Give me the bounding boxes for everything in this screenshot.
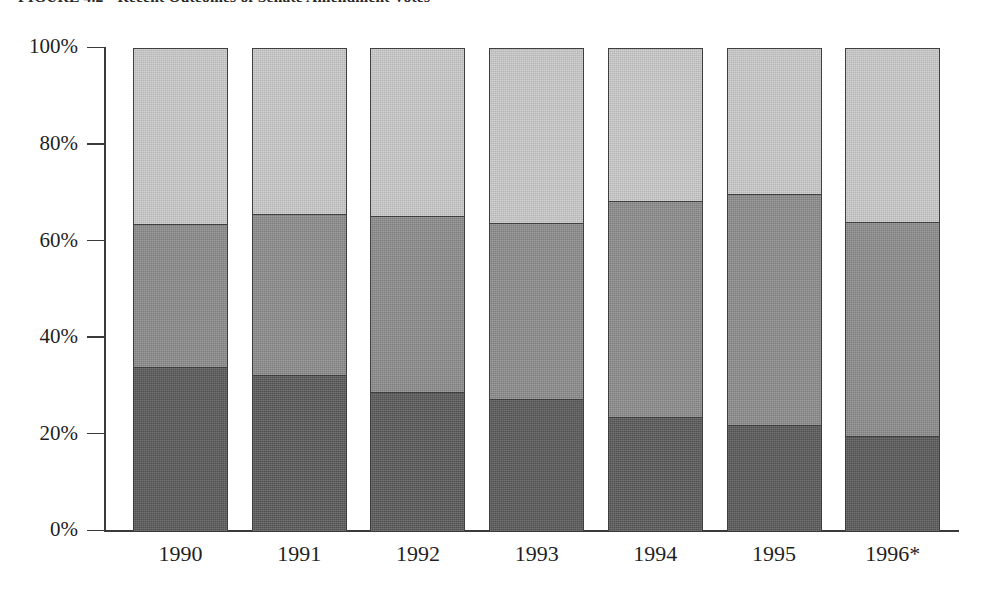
bar-segment-bottom[interactable] (133, 367, 228, 531)
y-axis-tick-label: 60% (40, 230, 79, 251)
y-axis-tick: 0% (87, 530, 104, 531)
bar-segment-middle[interactable] (133, 224, 228, 367)
bar-segment-top[interactable] (133, 48, 228, 224)
bar-segment-top[interactable] (370, 48, 465, 216)
bar-segment-bottom[interactable] (727, 425, 822, 531)
plot-area: 0%20%40%60%80%100% (104, 48, 959, 531)
y-axis-tick: 60% (87, 240, 104, 241)
figure-title-text: Recent Outcomes of Senate Amendment Vote… (118, 0, 431, 5)
bar-segment-top[interactable] (845, 48, 940, 222)
bar-stack[interactable] (252, 48, 347, 531)
bar-segment-middle[interactable] (727, 194, 822, 425)
y-axis-tick: 40% (87, 336, 104, 337)
x-axis-label: 1996* (823, 543, 963, 565)
bar-stack[interactable] (489, 48, 584, 531)
bar-segment-bottom[interactable] (252, 375, 347, 531)
bar-stack[interactable] (133, 48, 228, 531)
y-axis-tick-label: 0% (50, 519, 78, 540)
figure-container: FIGURE 4.2Recent Outcomes of Senate Amen… (0, 0, 983, 598)
bar-segment-top[interactable] (727, 48, 822, 194)
bar-segment-bottom[interactable] (608, 417, 703, 531)
bar-segment-bottom[interactable] (845, 436, 940, 531)
figure-number: FIGURE 4.2 (18, 0, 104, 5)
bar-segment-top[interactable] (608, 48, 703, 201)
y-axis-tick-label: 80% (40, 133, 79, 154)
bar-segment-middle[interactable] (252, 214, 347, 375)
bar-stack[interactable] (608, 48, 703, 531)
bar-segment-bottom[interactable] (370, 392, 465, 531)
bar-segment-middle[interactable] (845, 222, 940, 436)
figure-title: FIGURE 4.2Recent Outcomes of Senate Amen… (18, 0, 958, 6)
bar-stack[interactable] (845, 48, 940, 531)
bar-stack[interactable] (370, 48, 465, 531)
y-axis-tick-label: 40% (40, 326, 79, 347)
y-axis-tick: 100% (87, 47, 104, 48)
y-axis-tick: 20% (87, 433, 104, 434)
bar-segment-middle[interactable] (489, 223, 584, 399)
bar-stack[interactable] (727, 48, 822, 531)
y-axis-tick-label: 100% (29, 36, 78, 57)
y-axis-tick-label: 20% (40, 423, 79, 444)
bar-segment-top[interactable] (489, 48, 584, 223)
y-axis-tick: 80% (87, 143, 104, 144)
bar-segment-middle[interactable] (608, 201, 703, 417)
bar-segment-top[interactable] (252, 48, 347, 214)
bar-segment-middle[interactable] (370, 216, 465, 392)
bar-segment-bottom[interactable] (489, 399, 584, 531)
